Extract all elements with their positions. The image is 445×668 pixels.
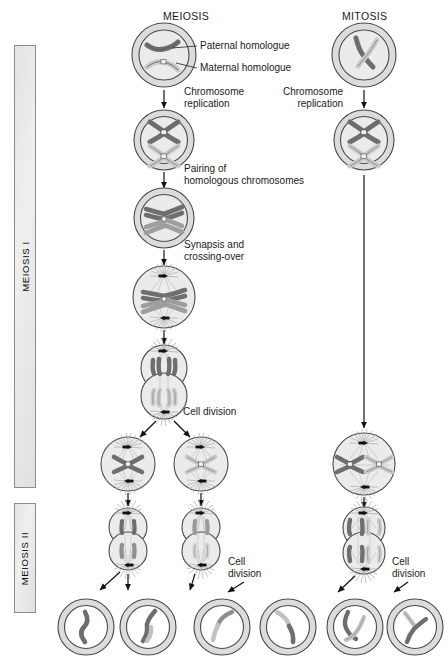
diagram-canvas bbox=[0, 0, 445, 668]
daughter-cell-1 bbox=[327, 599, 383, 655]
gamete-1 bbox=[58, 599, 114, 655]
cell-meiosis-start bbox=[132, 23, 196, 87]
cell-meiosis-anaphase-i bbox=[141, 337, 187, 426]
cell-meiosis-ii-anaphase-left bbox=[109, 499, 147, 579]
gamete-3 bbox=[194, 599, 250, 655]
cell-meiosis-ii-left bbox=[101, 433, 155, 495]
cell-meiosis-ii-right bbox=[174, 433, 228, 495]
daughter-cell-2 bbox=[387, 599, 443, 655]
gamete-2 bbox=[120, 599, 176, 655]
cell-meiosis-metaphase-i bbox=[133, 262, 195, 332]
cell-mitosis-replicated bbox=[334, 110, 394, 170]
cell-meiosis-paired bbox=[134, 188, 194, 248]
gamete-4 bbox=[260, 599, 316, 655]
meiosis-mitosis-figure: MEIOSIS MITOSIS MEIOSIS I MEIOSIS II Pat… bbox=[0, 0, 445, 668]
cell-meiosis-ii-anaphase-right bbox=[182, 499, 220, 579]
cell-meiosis-replicated bbox=[134, 110, 194, 170]
cell-mitosis-start bbox=[332, 23, 396, 87]
cell-mitosis-anaphase bbox=[343, 499, 385, 583]
cell-mitosis-metaphase bbox=[333, 429, 395, 501]
